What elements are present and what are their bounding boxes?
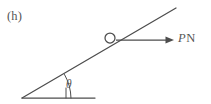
force-unit: N (186, 31, 196, 45)
incline-line (22, 8, 176, 98)
force-symbol: P (178, 31, 186, 45)
figure-container: (h) PN θ (0, 0, 211, 104)
force-label: PN (178, 32, 195, 45)
inclined-plane-diagram (0, 0, 211, 104)
particle-circle-icon (105, 33, 115, 43)
angle-label: θ (66, 79, 72, 91)
force-arrow-head-icon (166, 36, 175, 43)
panel-label: (h) (7, 10, 22, 23)
